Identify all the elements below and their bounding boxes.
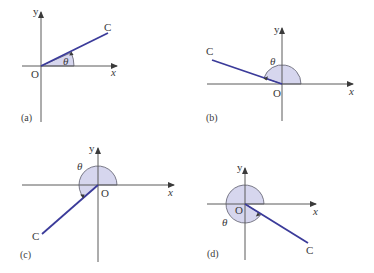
caption-c: (c) [20, 249, 31, 261]
theta-label-d: θ [222, 216, 228, 228]
angle-sector-b [264, 65, 301, 84]
theta-label-b: θ [270, 55, 276, 67]
panel-b: y x O C θ (b) [206, 23, 354, 124]
caption-a: (a) [21, 112, 32, 124]
origin-label-c: O [101, 187, 109, 199]
y-label-c: y [89, 142, 95, 154]
x-label-b: x [348, 85, 354, 97]
x-label-a: x [110, 66, 116, 78]
panel-a: y x O C θ (a) [21, 5, 117, 124]
theta-label-c: θ [77, 160, 83, 172]
point-label-c: C [32, 230, 39, 242]
panel-c: y x O C θ (c) [20, 142, 174, 262]
theta-label-a: θ [63, 55, 69, 67]
point-label-a: C [104, 21, 111, 33]
ray-oc-c [42, 185, 98, 234]
point-label-d: C [306, 244, 313, 256]
y-label-b: y [274, 23, 280, 35]
y-label-a: y [33, 5, 39, 17]
x-label-d: x [312, 205, 318, 217]
ray-oc-a [41, 33, 108, 66]
angle-diagram-figure: y x O C θ (a) y x O C θ (b) y x O C θ (c… [0, 0, 374, 273]
x-label-c: x [167, 186, 173, 198]
point-label-b: C [206, 45, 213, 57]
y-label-d: y [237, 161, 243, 173]
origin-label-b: O [273, 87, 281, 99]
origin-label-d: O [235, 204, 243, 216]
caption-b: (b) [206, 112, 218, 124]
origin-label-a: O [31, 68, 39, 80]
ray-oc-d [245, 204, 308, 243]
caption-d: (d) [207, 248, 219, 260]
panel-d: y x O C θ (d) [207, 161, 318, 260]
